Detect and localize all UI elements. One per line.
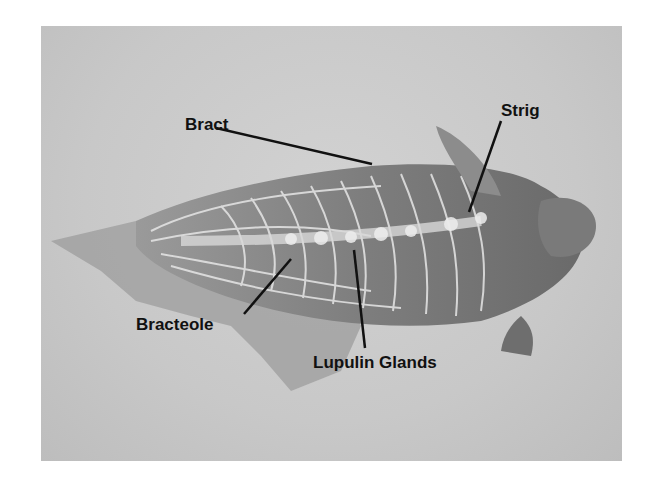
bract-label: Bract: [185, 116, 228, 133]
hop-cone-photo: Bract Strig Bracteole Lupulin Glands: [41, 26, 622, 461]
stem: [538, 198, 596, 257]
lupulin-glands-label: Lupulin Glands: [313, 354, 437, 371]
stem-tip: [501, 316, 533, 356]
hop-cone-illustration: [41, 26, 622, 461]
bracteole-label: Bracteole: [136, 316, 213, 333]
bract-leader: [216, 128, 372, 164]
strig-label: Strig: [501, 102, 540, 119]
